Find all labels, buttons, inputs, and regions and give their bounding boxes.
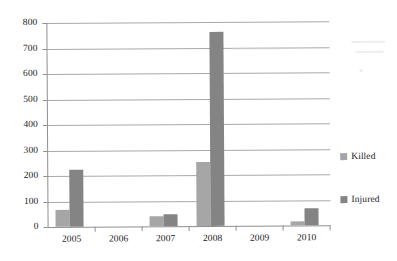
scan-artifact [360,69,363,72]
legend-item-injured[interactable]: Injured [340,194,379,204]
y-axis-label-0: 0 [1,222,39,231]
x-tick-5 [283,225,284,230]
x-axis-label-2009: 2009 [240,233,280,244]
y-tick-700 [42,48,46,49]
y-axis-label-600: 600 [0,69,38,78]
x-axis-label-2010: 2010 [287,232,327,243]
scan-artifact [351,41,385,43]
x-axis-label-2005: 2005 [52,234,92,245]
y-tick-0 [44,227,48,228]
legend-label-injured: Injured [351,194,379,204]
scan-artifact [356,51,384,53]
y-tick-600 [43,74,47,75]
injured-swatch-icon [340,196,347,203]
bar-killed-2010 [291,222,305,226]
x-tick-1 [95,227,96,232]
x-tick-4 [236,226,237,231]
y-axis-label-200: 200 [0,171,38,180]
gridline-600 [47,72,330,75]
plot-area [46,21,330,227]
y-tick-100 [43,201,47,202]
gridline-200 [47,174,330,177]
gridline-800 [46,21,329,24]
x-tick-2 [142,226,143,231]
x-tick-6 [330,225,331,230]
bar-killed-2007 [150,216,164,226]
scan-artifact [231,48,277,50]
legend-label-killed: Killed [351,151,375,161]
gridline-500 [47,98,330,101]
y-tick-800 [42,23,46,24]
gridline-400 [47,123,330,126]
y-axis-label-800: 800 [0,18,37,27]
y-axis-label-500: 500 [0,94,38,103]
bar-injured-2007 [164,214,178,226]
bar-injured-2010 [304,209,318,226]
x-axis-label-2006: 2006 [99,233,139,244]
y-tick-500 [43,99,47,100]
y-axis-label-700: 700 [0,43,38,52]
bar-injured-2005 [69,169,83,226]
y-axis-label-100: 100 [0,196,38,205]
y-axis-label-300: 300 [0,145,38,154]
x-axis-label-2008: 2008 [193,233,233,244]
killed-swatch-icon [340,153,347,160]
bar-injured-2008 [209,32,224,226]
y-tick-200 [43,176,47,177]
bar-killed-2008 [196,162,210,226]
gridline-100 [47,200,330,203]
gridline-700 [46,47,329,50]
y-tick-400 [43,125,47,126]
y-axis-label-400: 400 [0,120,38,129]
x-axis-label-2007: 2007 [146,233,186,244]
gridline-300 [47,149,330,152]
legend-item-killed[interactable]: Killed [340,151,375,161]
y-tick-300 [43,150,47,151]
bar-chart: 800 700 600 500 400 300 200 100 0 2005 2… [0,0,397,261]
bar-killed-2005 [55,210,69,227]
x-tick-3 [189,226,190,231]
